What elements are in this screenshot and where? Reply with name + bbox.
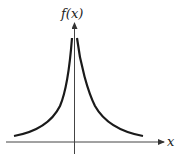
x-axis-label: x — [167, 134, 175, 149]
curve-right-branch — [77, 38, 143, 136]
curve-left-branch — [14, 38, 72, 136]
y-axis-label: f(x) — [60, 6, 83, 21]
chart: f(x) x — [0, 0, 182, 164]
